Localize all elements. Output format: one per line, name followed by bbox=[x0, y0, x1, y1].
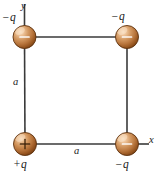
side-length-label-left: a bbox=[13, 77, 18, 88]
charge-label-bottom-left: +q bbox=[13, 159, 27, 171]
charge-spheres bbox=[13, 25, 139, 155]
side-length-label-bottom: a bbox=[74, 146, 79, 157]
charge-sphere-bottom-right bbox=[116, 132, 139, 155]
charge-label-top-right: −q bbox=[111, 11, 125, 23]
figure-canvas bbox=[0, 0, 163, 176]
minus-sign-top-right bbox=[122, 36, 133, 38]
charge-label-bottom-right: −q bbox=[115, 159, 129, 171]
charge-sphere-top-left bbox=[13, 25, 36, 48]
charge-label-top-left: −q bbox=[2, 12, 16, 24]
plus-sign-vertical-bottom-left bbox=[24, 139, 26, 150]
minus-sign-top-left bbox=[19, 36, 30, 38]
physics-figure-square-charges: −q −q +q −q y x a a bbox=[0, 0, 163, 176]
minus-sign-bottom-right bbox=[122, 143, 133, 145]
edge-left bbox=[25, 37, 26, 144]
square-edges bbox=[25, 37, 128, 144]
coordinate-axes bbox=[25, 4, 150, 144]
y-axis-label: y bbox=[21, 1, 26, 12]
charge-sphere-bottom-left bbox=[14, 132, 37, 155]
charge-sphere-top-right bbox=[116, 25, 139, 48]
x-axis-label: x bbox=[149, 135, 154, 146]
